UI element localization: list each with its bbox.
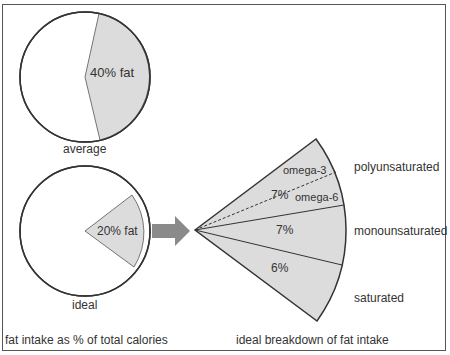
ideal-pct-label: 20% fat <box>97 224 138 238</box>
left-caption: fat intake as % of total calories <box>5 333 168 347</box>
poly-pct: 7% <box>271 188 288 202</box>
ideal-title: ideal <box>72 298 97 312</box>
omega6-label: omega-6 <box>295 191 338 203</box>
mono-label: monounsaturated <box>354 224 447 238</box>
mono-pct: 7% <box>276 223 293 237</box>
omega3-label: omega-3 <box>283 164 326 176</box>
arrow-icon <box>152 216 190 246</box>
average-pct-label: 40% fat <box>90 65 134 80</box>
right-caption: ideal breakdown of fat intake <box>236 333 389 347</box>
poly-label: polyunsaturated <box>354 160 439 174</box>
average-title: average <box>63 142 106 156</box>
sat-pct: 6% <box>271 261 288 275</box>
sat-label: saturated <box>354 291 404 305</box>
